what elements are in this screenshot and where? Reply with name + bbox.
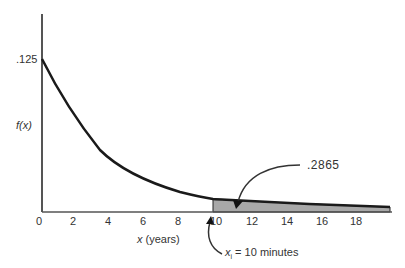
x-tick-18: 18: [350, 215, 362, 227]
x-tick-12: 12: [246, 215, 258, 227]
exponential-density-chart: .125 f(x) 0 2 4 6 8 10 12 14 16 18 x (ye…: [0, 0, 405, 268]
x-tick-16: 16: [316, 215, 328, 227]
x-axis-unit: (years): [143, 233, 180, 245]
x-tick-6: 6: [140, 215, 146, 227]
x-tick-4: 4: [105, 215, 111, 227]
x-axis-label: x (years): [137, 233, 180, 245]
y-axis-label: f(x): [16, 119, 32, 131]
x-tick-2: 2: [70, 215, 76, 227]
density-curve: [42, 59, 390, 207]
x-tick-14: 14: [281, 215, 293, 227]
x-tick-8: 8: [175, 215, 181, 227]
area-value-label: .2865: [307, 158, 340, 172]
xi-annotation-label: xi = 10 minutes: [225, 246, 298, 260]
y-tick-label-top: .125: [16, 53, 37, 65]
xi-value: = 10 minutes: [232, 246, 298, 258]
x-tick-10: 10: [210, 215, 222, 227]
area-annotation-arrow: [238, 165, 300, 202]
chart-canvas: [0, 0, 405, 268]
x-tick-0: 0: [36, 215, 42, 227]
